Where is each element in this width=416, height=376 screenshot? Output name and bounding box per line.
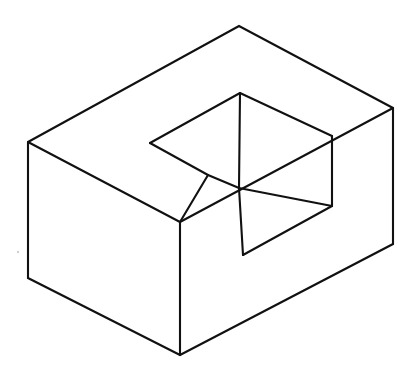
faint-speck-artifact [17,251,19,253]
isometric-block-figure [0,0,416,376]
edge-notch-back-vertical [239,93,240,188]
